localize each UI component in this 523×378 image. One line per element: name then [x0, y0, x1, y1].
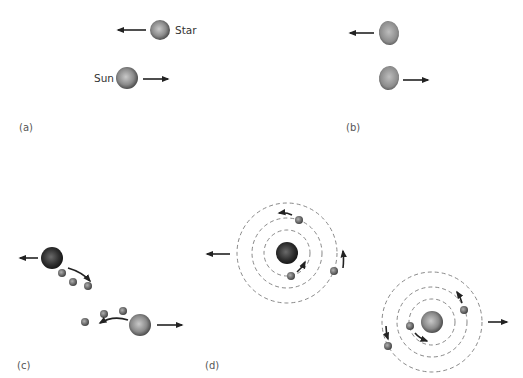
planet [460, 306, 468, 314]
planet-motion-arrow [343, 251, 344, 268]
central-star [276, 242, 298, 264]
tidal-blob [69, 278, 77, 286]
tidal-blob [84, 282, 92, 290]
planet-motion-arrow [279, 213, 292, 215]
planet [287, 272, 295, 280]
panel-d-label: (d) [205, 360, 219, 371]
star-label: Star [175, 24, 197, 36]
panel-b: (b) [346, 20, 428, 133]
panel-a-label: (a) [19, 122, 33, 133]
planetary-system-left [207, 203, 344, 303]
star-sphere [150, 20, 170, 40]
panel-c: (c) [17, 247, 182, 371]
tidal-blob [58, 269, 66, 277]
planet [330, 267, 338, 275]
panel-d: (d) [205, 203, 507, 372]
panel-c-label: (c) [17, 360, 30, 371]
distorted-sun [377, 65, 400, 92]
planet-motion-arrow [457, 292, 462, 303]
distorted-star [377, 20, 400, 47]
stellar-encounter-diagram: Star Sun (a) (b) (c) [0, 0, 523, 378]
star-sphere [41, 247, 63, 269]
planet-motion-arrow [386, 326, 388, 339]
stream-arrow [100, 318, 128, 323]
sun-sphere [116, 67, 138, 89]
planet [295, 216, 303, 224]
planet [406, 322, 414, 330]
planet-motion-arrow [297, 262, 305, 272]
central-star [421, 311, 443, 333]
panel-a: Star Sun (a) [19, 20, 197, 133]
tidal-blob [100, 310, 108, 318]
panel-b-label: (b) [346, 122, 360, 133]
tidal-blob [119, 307, 127, 315]
tidal-blob [81, 318, 89, 326]
planetary-system-right [382, 272, 507, 372]
planet [384, 342, 392, 350]
sun-label: Sun [94, 72, 114, 84]
sun-sphere [129, 314, 151, 336]
